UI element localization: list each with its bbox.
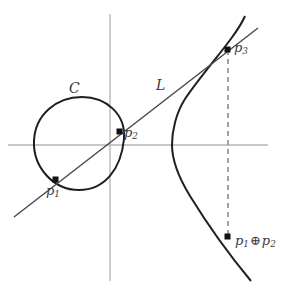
curve-label-C: C [69,81,80,95]
point-label-p1-subscript: 1 [54,189,60,199]
point-label-p1: p1 [46,184,60,197]
elliptic-curve-addition-figure: C L p1 p2 p3 p1⊕p2 [0,0,290,291]
sum-label-right-base: p [262,233,270,248]
point-label-sum: p1⊕p2 [235,234,276,247]
point-p2-marker [117,129,123,135]
axes-group [8,14,268,281]
point-label-p3-subscript: 3 [242,46,248,56]
points-group [53,47,231,240]
point-p3-marker [225,47,231,53]
point-sum-marker [225,234,231,240]
point-label-p3: p3 [234,41,248,54]
point-label-p2: p2 [124,126,138,139]
point-p1-marker [53,177,59,183]
sum-label-right-subscript: 2 [270,239,276,249]
circled-plus-icon: ⊕ [249,233,262,248]
line-label-L: L [156,78,165,92]
sum-label-left-subscript: 1 [243,239,249,249]
point-label-p2-subscript: 2 [132,131,138,141]
